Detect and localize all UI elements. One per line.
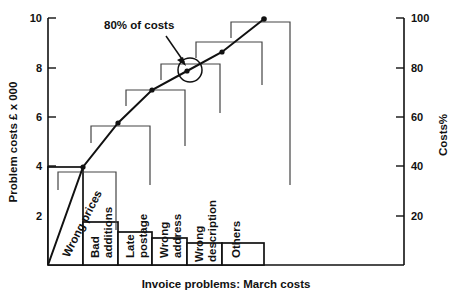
bar-label-address: address (171, 214, 183, 258)
cum-point-6[interactable] (261, 16, 267, 22)
bracket-segment-4 (161, 64, 220, 113)
right-tick-label-80: 80 (411, 62, 423, 74)
bar-label-wrong-1: Wrong (158, 222, 170, 258)
right-tick-label-100: 100 (411, 12, 429, 24)
bar-label-postage: postage (137, 214, 149, 258)
bottom-axis-title: Invoice problems: March costs (142, 278, 311, 290)
pareto-chart-svg: 10 8 6 4 2 Problem costs £ x 000 Invoice… (0, 0, 461, 293)
left-tick-label-2: 2 (36, 210, 42, 222)
right-axis-title: Costs% (437, 114, 449, 156)
cum-point-5[interactable] (219, 49, 224, 54)
bar-others[interactable] (222, 243, 264, 265)
bracket-segment-2 (91, 126, 150, 185)
right-axis-group: 100 80 60 40 20 Costs% (396, 12, 449, 265)
right-tick-label-60: 60 (411, 111, 423, 123)
left-axis-title: Problem costs £ x 000 (7, 82, 19, 203)
bar-label-additions: additions (102, 207, 114, 258)
right-tick-label-40: 40 (411, 160, 423, 172)
callout-label-80-percent: 80% of costs (104, 19, 174, 31)
bar-label-others: Others (230, 221, 242, 258)
cum-point-1[interactable] (80, 164, 85, 169)
left-tick-label-4: 4 (36, 160, 43, 172)
bottom-axis-group: Invoice problems: March costs (48, 265, 404, 290)
callout-arrow-head-icon (177, 57, 186, 66)
bar-label-wrong-2: Wrong (193, 226, 205, 262)
bracket-segment-3 (126, 90, 185, 146)
cum-point-4[interactable] (184, 68, 189, 73)
cum-point-2[interactable] (115, 120, 120, 125)
left-tick-label-8: 8 (36, 62, 42, 74)
left-tick-label-10: 10 (30, 12, 42, 24)
left-tick-label-6: 6 (36, 111, 42, 123)
right-tick-label-20: 20 (411, 210, 423, 222)
bar-label-late: Late (124, 234, 136, 258)
cum-point-3[interactable] (149, 87, 154, 92)
bar-label-description: description (206, 200, 218, 262)
bracket-segment-6 (231, 22, 290, 185)
bar-label-bad: Bad (89, 236, 101, 258)
callout-group: 80% of costs (104, 19, 186, 66)
pareto-chart-figure: 10 8 6 4 2 Problem costs £ x 000 Invoice… (0, 0, 461, 293)
